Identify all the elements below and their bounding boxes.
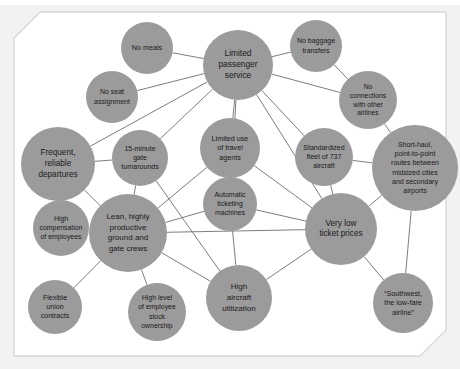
node-circle [339,71,397,129]
diagram-node-no_seat[interactable]: No seatassignment [86,71,138,123]
diagram-node-aircraft_util[interactable]: Highaircraftutilization [206,265,272,331]
diagram-node-ticketing_machines[interactable]: Automaticticketingmachines [203,177,257,231]
node-circle [305,193,377,265]
diagram-node-travel_agents[interactable]: Limited useof travelagents [200,118,260,178]
activity-system-diagram: No mealsNo seatassignmentLimitedpassenge… [0,0,460,369]
diagram-node-standardized_fleet[interactable]: Standardizedfleet of 737aircraft [295,128,353,186]
node-circle [203,177,257,231]
top-crop-strip [0,0,460,5]
node-circle [373,273,433,333]
node-circle [28,280,82,334]
diagram-node-gate_turnarounds[interactable]: 15-minutegateturnarounds [112,130,168,186]
node-circle [112,130,168,186]
diagram-node-very_low_prices[interactable]: Very lowticket prices [305,193,377,265]
node-circle [206,265,272,331]
node-circle [290,20,342,72]
diagram-node-lean_crews[interactable]: Lean, highlyproductiveground andgate cre… [89,194,167,272]
diagram-node-southwest_slogan[interactable]: “Southwest,the low-fareairline” [373,273,433,333]
node-circle [128,283,186,341]
diagram-node-high_compensation[interactable]: Highcompensationof employees [33,200,89,256]
node-circle [121,22,173,74]
node-circle [295,128,353,186]
node-circle [86,71,138,123]
diagram-node-no_meals[interactable]: No meals [121,22,173,74]
node-circle [21,127,95,201]
diagram-node-no_connections[interactable]: Noconnectionswith otherairlines [339,71,397,129]
node-circle [203,30,273,100]
diagram-node-stock_ownership[interactable]: High levelof employeestockownership [128,283,186,341]
diagram-node-short_haul[interactable]: Short-haul,point-to-pointroutes betweenm… [372,125,458,211]
node-circle [89,194,167,272]
diagram-node-frequent_departures[interactable]: Frequent,reliabledepartures [21,127,95,201]
node-circle [33,200,89,256]
node-circle [200,118,260,178]
diagram-node-no_baggage[interactable]: No baggagetransfers [290,20,342,72]
node-circle [372,125,458,211]
diagram-canvas: No mealsNo seatassignmentLimitedpassenge… [0,0,460,369]
diagram-node-limited_passenger[interactable]: Limitedpassengerservice [203,30,273,100]
diagram-node-flexible_union[interactable]: Flexibleunioncontracts [28,280,82,334]
